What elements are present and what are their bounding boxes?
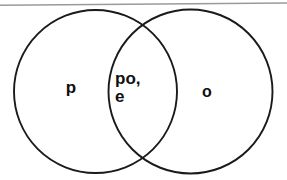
intersection-region-label: po, e <box>112 70 158 107</box>
left-only-region-label: p <box>52 79 90 97</box>
venn-diagram-canvas: p po, e o <box>0 0 287 180</box>
right-only-region-label: o <box>188 83 226 100</box>
